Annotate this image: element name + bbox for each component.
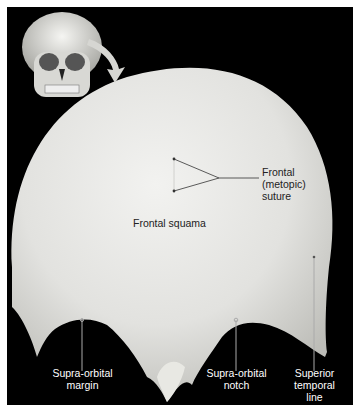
label-frontal-metopic-suture: Frontal (metopic) suture xyxy=(262,166,306,202)
label-line: line xyxy=(287,391,342,403)
figure-frame: Frontal (metopic) suture Frontal squama … xyxy=(7,7,353,405)
label-line: Superior xyxy=(287,367,342,379)
label-line: Supra-orbital xyxy=(45,367,120,379)
label-line: Frontal xyxy=(262,166,306,178)
label-supraorbital-margin: Supra-orbital margin xyxy=(45,367,120,391)
label-supraorbital-notch: Supra-orbital notch xyxy=(199,367,274,391)
label-line: notch xyxy=(199,379,274,391)
label-line: margin xyxy=(45,379,120,391)
label-line: temporal xyxy=(287,379,342,391)
label-line: suture xyxy=(262,190,306,202)
frontal-bone-illustration xyxy=(7,7,353,405)
label-line: Supra-orbital xyxy=(199,367,274,379)
label-superior-temporal-line: Superior temporal line xyxy=(287,367,342,403)
label-line: (metopic) xyxy=(262,178,306,190)
label-frontal-squama: Frontal squama xyxy=(133,217,206,229)
